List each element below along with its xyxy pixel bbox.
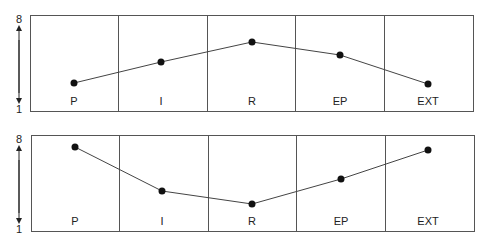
data-point-i [159,188,166,195]
data-point-ep [338,176,345,183]
data-point-p [71,80,78,87]
category-label-r: R [248,95,256,107]
category-label-p: P [70,95,77,107]
category-label-i: I [159,95,162,107]
y-axis-max-label: 8 [16,133,22,145]
data-point-r [249,39,256,46]
y-axis-min-label: 1 [16,223,22,235]
y-axis-min-label: 1 [16,103,22,115]
data-point-ext [425,81,432,88]
data-line [75,147,428,204]
category-label-ext: EXT [417,215,439,227]
category-label-p: P [71,215,78,227]
data-point-i [158,59,165,66]
category-label-ext: EXT [417,95,439,107]
category-label-ep: EP [334,215,349,227]
category-label-r: R [248,215,256,227]
profile-charts: 8 1 P I R EP EXT 8 1 [0,0,491,242]
y-axis-max-label: 8 [16,13,22,25]
chart-top: 8 1 P I R EP EXT [16,13,474,115]
category-label-i: I [160,215,163,227]
data-point-ep [337,52,344,59]
chart-bottom: 8 1 P I R EP EXT [16,133,475,235]
category-label-ep: EP [333,95,348,107]
data-line [74,42,428,84]
data-point-p [72,144,79,151]
data-point-r [249,201,256,208]
data-point-ext [425,147,432,154]
